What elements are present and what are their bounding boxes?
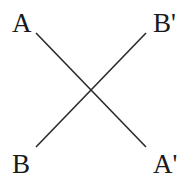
label-b: B bbox=[12, 149, 30, 179]
label-a: A bbox=[12, 8, 32, 38]
label-a-prime: A' bbox=[153, 149, 177, 179]
label-b-prime: B' bbox=[153, 8, 176, 38]
diagram-svg: A B' B A' bbox=[0, 0, 190, 186]
crossing-lines-diagram: A B' B A' bbox=[0, 0, 190, 186]
